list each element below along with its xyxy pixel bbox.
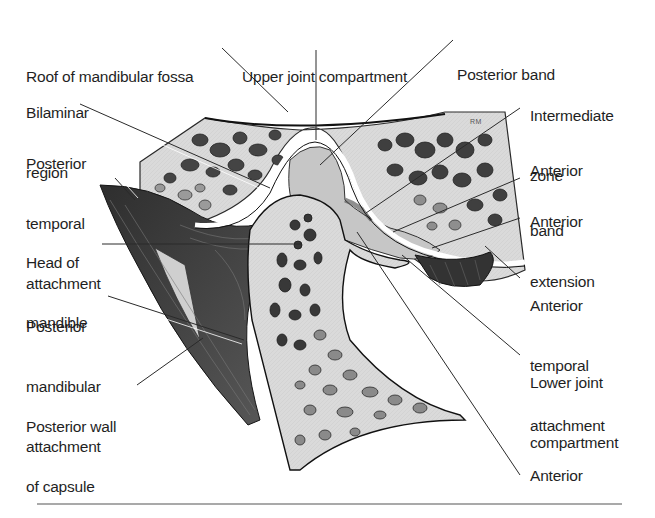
label-posterior-wall-of-capsule: Posterior wall of capsule [26, 377, 116, 518]
label-upper-joint-compartment: Upper joint compartment [242, 27, 407, 127]
leader-posterior-wall-of-capsule [137, 338, 203, 385]
bottom-divider [37, 503, 622, 505]
tmj-diagram: RM [0, 0, 655, 518]
